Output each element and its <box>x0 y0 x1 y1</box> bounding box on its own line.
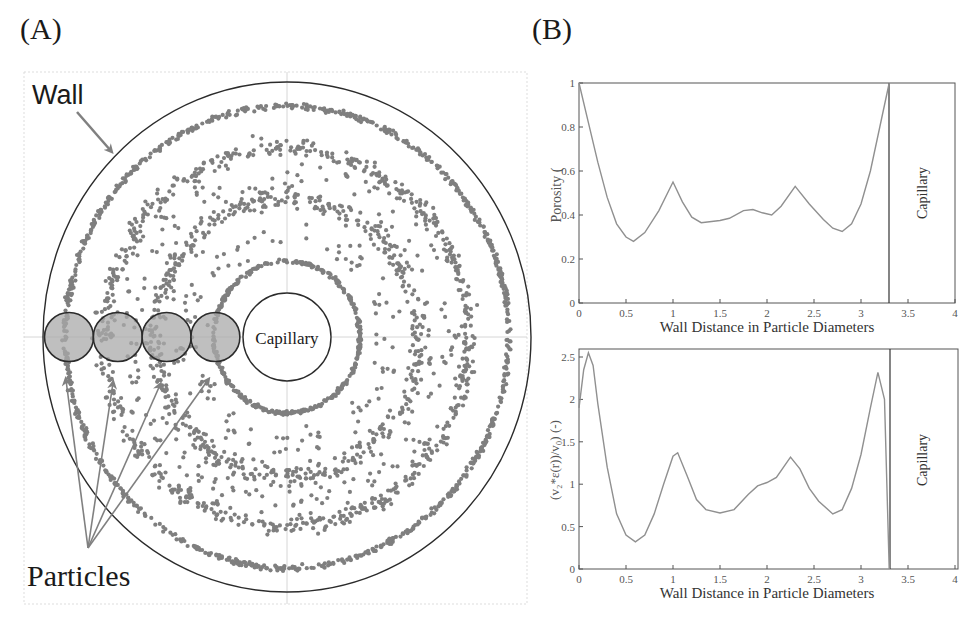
particle-dot <box>410 464 414 468</box>
particle-dot <box>155 250 159 254</box>
particle-dot <box>136 449 140 453</box>
particle-dot <box>316 532 320 536</box>
particle-dot <box>330 155 334 159</box>
particle-dot <box>300 106 304 110</box>
particle-dot <box>113 402 117 406</box>
particle-dot <box>112 397 116 401</box>
particle-dot <box>342 111 346 115</box>
particle-dot <box>199 222 203 226</box>
particle-dot <box>449 348 453 352</box>
particle-dot <box>506 372 510 376</box>
particle-dot <box>247 152 251 156</box>
particle-dot <box>504 292 508 296</box>
particle-dot <box>297 475 301 479</box>
particle-dot <box>304 424 308 428</box>
particle-dot <box>400 182 404 186</box>
y-axis-label: (v₂*ε(r))/v₀) (-) <box>547 420 562 500</box>
particle-dot <box>190 235 194 239</box>
particle-dot <box>221 295 225 299</box>
particle-dot <box>231 212 235 216</box>
particle-dot <box>338 517 342 521</box>
particle-dot <box>488 243 492 247</box>
particle-dot <box>108 475 112 479</box>
particle-dot <box>389 542 393 546</box>
particle-dot <box>444 172 448 176</box>
capillary-label: Capillary <box>255 329 319 348</box>
particle-dot <box>152 419 156 423</box>
particle-dot <box>416 369 420 373</box>
particle-dot <box>496 405 500 409</box>
particle-dot <box>193 438 197 442</box>
particle-dot <box>384 301 388 305</box>
particle-dot <box>338 203 342 207</box>
particle-dot <box>412 309 416 313</box>
particle-dot <box>414 362 418 366</box>
particle-dot <box>485 232 489 236</box>
particle-dot <box>207 223 211 227</box>
particle-dot <box>257 519 261 523</box>
particle-dot <box>388 255 392 259</box>
particle-dot <box>171 215 175 219</box>
particle-dot <box>186 544 190 548</box>
particle-dot <box>170 399 174 403</box>
particle-dot <box>145 449 149 453</box>
particle-dot <box>374 342 378 346</box>
particle-dot <box>217 304 221 308</box>
particle-dot <box>410 201 414 205</box>
particle-dot <box>505 354 509 358</box>
particle-dot <box>389 502 393 506</box>
particle-dot <box>141 234 145 238</box>
particle-dot <box>344 214 348 218</box>
particle-dot <box>457 365 461 369</box>
particle-dot <box>305 107 309 111</box>
particle-dot <box>356 317 360 321</box>
particle-dot <box>167 412 171 416</box>
particle-dot <box>224 436 228 440</box>
particle-dot <box>200 121 204 125</box>
particle-dot <box>348 374 352 378</box>
particle-dot <box>414 349 418 353</box>
particle-dot <box>179 133 183 137</box>
particle-dot <box>387 435 391 439</box>
particle-dot <box>118 486 122 490</box>
particle-dot <box>193 238 197 242</box>
particle-dot <box>335 257 339 261</box>
particle-dot <box>455 403 459 407</box>
particle-dot <box>111 270 115 274</box>
particle-dot <box>231 560 235 564</box>
particle-dot <box>267 529 271 533</box>
particle-dot <box>66 303 70 307</box>
particle-dot <box>181 455 185 459</box>
particle-dot <box>177 465 181 469</box>
particle-dot <box>194 174 198 178</box>
y-tick-label: 2 <box>570 393 576 405</box>
particle-dot <box>309 470 313 474</box>
particle-dot <box>439 171 443 175</box>
particle-dot <box>216 195 220 199</box>
particle-dot <box>157 486 161 490</box>
particle-dot <box>407 421 411 425</box>
particle-dot <box>130 223 134 227</box>
particle-dot <box>382 427 386 431</box>
particle-dot <box>505 317 509 321</box>
particle-dot <box>310 265 314 269</box>
particle-dot <box>405 261 409 265</box>
particle-dot <box>252 109 256 113</box>
particle-dot <box>384 177 388 181</box>
particle-dot <box>410 327 414 331</box>
particle-dot <box>443 301 447 305</box>
particle-dot <box>459 396 463 400</box>
particle-dot <box>374 549 378 553</box>
particle-dot <box>128 374 132 378</box>
particle-dot <box>71 394 75 398</box>
particle-dot <box>275 525 279 529</box>
particle-dot <box>270 149 274 153</box>
particle-dot <box>174 437 178 441</box>
particle-dot <box>105 291 109 295</box>
particle-dot <box>139 445 143 449</box>
particle-dot <box>273 503 277 507</box>
particle-dot <box>147 455 151 459</box>
particle-dot <box>73 267 77 271</box>
particle-dot <box>213 169 217 173</box>
particle-dot <box>214 463 218 467</box>
